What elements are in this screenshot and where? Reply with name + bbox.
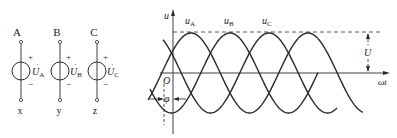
terminal-label-a: A <box>13 26 21 38</box>
svg-text:·: · <box>74 60 77 69</box>
svg-text:·: · <box>111 60 114 69</box>
curve-label-ua: uA <box>185 15 195 28</box>
terminal-label-b: B <box>53 26 60 38</box>
terminal-label-x: x <box>18 105 23 116</box>
phase-arrow-left-icon <box>173 97 179 101</box>
y-axis-label: u <box>164 10 169 21</box>
plus-sign: + <box>103 52 108 62</box>
plus-sign: + <box>66 52 71 62</box>
amplitude-arrow-down-icon <box>366 66 370 72</box>
minus-sign: − <box>66 79 71 89</box>
terminal-top-a <box>19 40 22 43</box>
minus-sign: − <box>28 79 33 89</box>
minus-sign: − <box>103 79 108 89</box>
phase-label: φ <box>164 93 170 104</box>
terminal-bottom-b <box>58 98 61 101</box>
x-axis-arrow-icon <box>383 71 390 75</box>
terminal-label-c: C <box>90 26 97 38</box>
source-b: B + − UB · y <box>51 26 82 116</box>
terminal-top-c <box>95 40 98 43</box>
y-axis-arrow-icon <box>171 9 175 16</box>
amplitude-label: U <box>364 47 372 58</box>
terminal-bottom-a <box>19 98 22 101</box>
curve-label-uc: uC <box>262 15 272 28</box>
plus-sign: + <box>28 52 33 62</box>
x-axis-label: ωt <box>378 77 387 87</box>
terminal-bottom-c <box>95 98 98 101</box>
terminal-label-y: y <box>57 105 62 116</box>
terminal-label-z: z <box>93 105 98 116</box>
amplitude-arrow-up-icon <box>366 33 370 39</box>
curve-label-ub: uB <box>224 15 234 28</box>
svg-text:·: · <box>36 60 39 69</box>
source-c: C + − UC · z <box>88 26 119 116</box>
source-a: A + − UA · x <box>12 26 44 116</box>
terminal-top-b <box>58 40 61 43</box>
waveform-plot: u ωt O U φ uA uB uC <box>148 9 390 134</box>
three-phase-diagram: A + − UA · x B + − UB · y C + − UC · z <box>0 0 397 138</box>
